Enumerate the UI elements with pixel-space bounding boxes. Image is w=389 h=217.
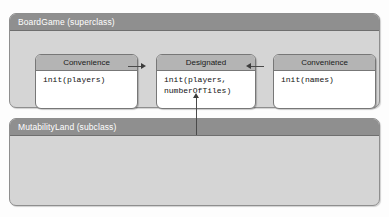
diagram-canvas: BoardGame (superclass) Convenience init(… xyxy=(0,0,389,217)
arrowhead-right-icon xyxy=(141,63,146,69)
connector-convenience-left-to-designated xyxy=(128,66,142,67)
group-superclass-title: BoardGame (superclass) xyxy=(10,14,379,31)
connector-convenience-right-to-designated xyxy=(251,66,264,67)
class-box-convenience-left[interactable]: Convenience init(players) xyxy=(35,54,138,109)
class-box-designated-superclass-header: Designated xyxy=(157,55,255,71)
group-subclass: MutabilityLand (subclass) Designated ini… xyxy=(9,118,380,206)
arrowhead-up-icon xyxy=(193,93,199,98)
class-box-convenience-left-body: init(players) xyxy=(36,71,137,90)
group-subclass-title: MutabilityLand (subclass) xyxy=(10,119,379,136)
class-box-convenience-right[interactable]: Convenience init(names) xyxy=(273,54,376,109)
arrowhead-left-icon xyxy=(246,63,251,69)
class-box-convenience-right-header: Convenience xyxy=(274,55,375,71)
connector-subclass-to-superclass xyxy=(196,96,197,135)
class-box-convenience-right-body: init(names) xyxy=(274,71,375,90)
class-box-designated-superclass-body: init(players, numberOfTiles) xyxy=(157,71,255,100)
class-box-convenience-left-header: Convenience xyxy=(36,55,137,71)
class-box-designated-superclass[interactable]: Designated init(players, numberOfTiles) xyxy=(156,54,256,109)
